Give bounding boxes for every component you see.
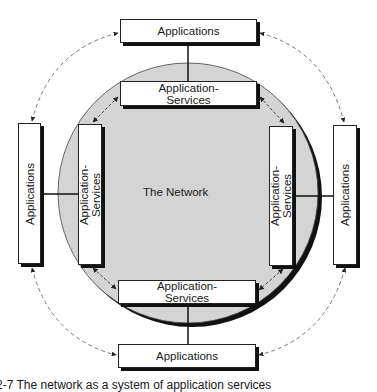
top-applications-label: Applications: [157, 25, 219, 37]
figure-caption: 2-7 The network as a system of applicati…: [0, 378, 271, 392]
left-services-box: Application- Services: [78, 124, 102, 265]
bottom-services-label-2: Services: [165, 292, 209, 304]
left-applications-box: Applications: [18, 123, 41, 264]
right-services-box: Application- Services: [269, 126, 293, 266]
top-services-box: Application- Services: [120, 81, 257, 106]
right-applications-box: Applications: [333, 125, 357, 265]
top-services-label-2: Services: [166, 94, 210, 106]
left-applications-label: Applications: [24, 162, 36, 224]
bottom-applications-label: Applications: [156, 350, 218, 362]
top-applications-box: Applications: [120, 19, 257, 43]
top-services-label-1: Application-: [158, 82, 218, 94]
right-services-label-2: Services: [281, 166, 293, 226]
network-label: The Network: [143, 186, 208, 198]
right-applications-label: Applications: [339, 164, 351, 226]
left-services-label-1: Application-: [78, 164, 90, 224]
right-services-text: Application- Services: [269, 166, 293, 226]
bottom-applications-box: Applications: [118, 344, 256, 368]
bottom-services-box: Application- Services: [118, 280, 256, 304]
left-services-label-2: Services: [90, 164, 102, 224]
left-services-text: Application- Services: [78, 164, 102, 224]
right-services-label-1: Application-: [269, 166, 281, 226]
bottom-services-label-1: Application-: [157, 280, 217, 292]
